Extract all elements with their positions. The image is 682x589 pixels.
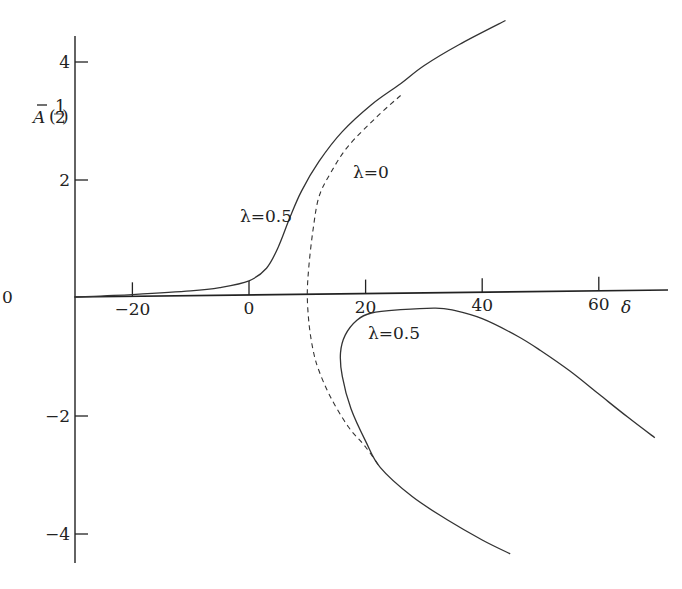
curve-lambda-0.5-lower [340, 308, 654, 554]
curves [74, 21, 655, 554]
y-tick-label: −2 [45, 406, 70, 426]
x-ticks: −200204060 [114, 277, 609, 320]
y-tick-label: −4 [45, 524, 70, 544]
x-tick-label: 20 [355, 297, 377, 317]
x-axis-title: δ [621, 297, 631, 317]
y-origin-label: 0 [2, 287, 13, 307]
annotation-lower-lambda: λ=0.5 [368, 323, 420, 343]
x-tick-label: 0 [244, 298, 255, 318]
y-axis-paren-close: ) [62, 106, 69, 126]
y-axis-title-A: A [31, 107, 45, 127]
x-tick-label: −20 [114, 299, 150, 319]
x-tick-label: 40 [471, 295, 493, 315]
chart-canvas: 42−2−4 −200204060 0 A ( 1 2 ) δ λ=0.5 λ=… [0, 0, 682, 589]
curve-lambda-0-dashed [307, 96, 400, 468]
annotation-dashed-lambda: λ=0 [353, 162, 389, 182]
y-tick-label: 2 [59, 170, 70, 190]
curve-lambda-0.5-upper [74, 21, 505, 298]
y-axis-title: A ( 1 2 ) [31, 96, 69, 127]
annotation-upper-lambda: λ=0.5 [240, 206, 292, 226]
y-tick-label: 4 [59, 52, 70, 72]
x-tick-label: 60 [588, 294, 610, 314]
